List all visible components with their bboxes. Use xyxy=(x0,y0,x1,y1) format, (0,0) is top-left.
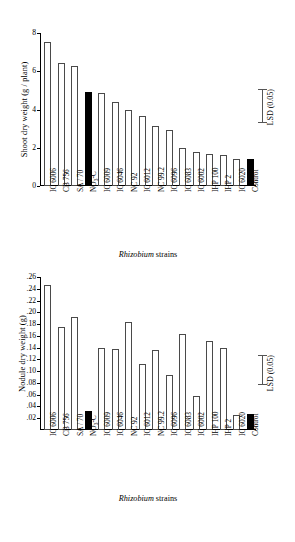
y-tick-label: 8 xyxy=(32,29,36,37)
lsd-line-top xyxy=(262,89,263,122)
y-tick-mark xyxy=(37,371,40,372)
y-tick-mark xyxy=(37,148,40,149)
y-tick-label: 6 xyxy=(32,67,36,75)
chart-panel-shoot-dry-weight: Shoot dry weight (g / plant) 02468 IC 60… xyxy=(0,0,295,271)
y-tick-mark xyxy=(37,383,40,384)
y-tick-mark xyxy=(37,110,40,111)
x-tick-label-bottom-12: IHP 100 xyxy=(212,411,219,436)
x-tick-label-top-13: IHP 2 xyxy=(225,175,232,192)
chart-panel-nodule-dry-weight: Nodule dry weight (g) .02.04.06.08.10.12… xyxy=(0,271,295,542)
x-tick-label-bottom-0: IC 6006 xyxy=(50,412,57,436)
bar-top-0 xyxy=(44,42,51,186)
y-tick-label: .22 xyxy=(27,297,37,305)
y-tick-mark xyxy=(37,33,40,34)
bar-bottom-13 xyxy=(220,348,227,430)
bar-top-2 xyxy=(71,66,78,186)
y-tick-mark xyxy=(37,289,40,290)
y-tick-label: .14 xyxy=(27,344,37,352)
y-axis-title-top: Shoot dry weight (g / plant) xyxy=(20,33,29,186)
bar-top-1 xyxy=(58,63,65,186)
y-tick-mark xyxy=(37,359,40,360)
x-tick-label-top-7: IC 6012 xyxy=(144,168,151,192)
y-tick-label: .24 xyxy=(27,285,37,293)
x-tick-label-top-10: IC 6083 xyxy=(185,168,192,192)
bar-bottom-6 xyxy=(125,322,132,430)
y-tick-mark xyxy=(37,348,40,349)
x-tick-label-bottom-6: NC 92 xyxy=(131,416,138,436)
bar-bottom-0 xyxy=(44,285,51,430)
y-tick-mark xyxy=(37,395,40,396)
x-tick-label-bottom-4: IC 6009 xyxy=(104,412,111,436)
y-tick-label: 0 xyxy=(32,182,36,190)
plot-area-bottom: .02.04.06.08.10.12.14.16.18.20.22.24.26 xyxy=(40,277,256,430)
figure-root: Shoot dry weight (g / plant) 02468 IC 60… xyxy=(0,0,295,542)
y-tick-label: .10 xyxy=(27,367,37,375)
x-tick-label-bottom-9: IC 6096 xyxy=(171,412,178,436)
x-tick-label-bottom-2: SA / 70 xyxy=(77,414,84,436)
x-tick-label-top-6: NC 92 xyxy=(131,172,138,192)
y-tick-mark xyxy=(37,277,40,278)
x-tick-label-top-1: CB 756 xyxy=(63,169,70,192)
y-tick-mark xyxy=(37,406,40,407)
x-tick-label-bottom-14: IC 6020 xyxy=(239,412,246,436)
x-tick-label-bottom-10: IC 6083 xyxy=(185,412,192,436)
x-tick-label-top-0: IC 6006 xyxy=(50,168,57,192)
y-tick-mark xyxy=(37,301,40,302)
x-tick-label-bottom-13: IHP 2 xyxy=(225,419,232,436)
x-tick-label-top-11: IC 6002 xyxy=(198,168,205,192)
x-tick-label-top-14: IC 6020 xyxy=(239,168,246,192)
x-tick-label-top-2: SA / 70 xyxy=(77,170,84,192)
y-tick-mark xyxy=(37,336,40,337)
y-tick-label: .06 xyxy=(27,391,37,399)
y-tick-mark xyxy=(37,324,40,325)
y-tick-mark xyxy=(37,312,40,313)
y-tick-label: 4 xyxy=(32,106,36,114)
y-tick-label: .26 xyxy=(27,273,37,281)
x-tick-label-bottom-1: CB 756 xyxy=(63,413,70,436)
x-tick-label-top-12: IHP 100 xyxy=(212,167,219,192)
lsd-label-bottom: LSD (0.05) xyxy=(266,355,275,391)
y-tick-label: .02 xyxy=(27,414,37,422)
y-tick-mark xyxy=(37,186,40,187)
y-tick-label: .12 xyxy=(27,356,37,364)
y-tick-label: .08 xyxy=(27,379,37,387)
y-tick-label: .04 xyxy=(27,403,37,411)
x-axis-title-bottom: Rhizobium strains xyxy=(40,494,256,503)
bar-series-top xyxy=(41,33,256,186)
lsd-annotation-top: LSD (0.05) xyxy=(256,89,290,122)
x-axis-title-top: Rhizobium strains xyxy=(40,250,256,259)
x-tick-label-top-5: IC 6046 xyxy=(117,168,124,192)
x-tick-label-bottom-8: NC 99.2 xyxy=(158,411,165,436)
x-tick-label-bottom-7: IC 6012 xyxy=(144,412,151,436)
y-tick-label: .18 xyxy=(27,320,37,328)
x-tick-label-top-8: NC 99.2 xyxy=(158,167,165,192)
x-tick-label-bottom-3: NO3-C xyxy=(90,415,98,436)
y-tick-mark xyxy=(37,71,40,72)
x-axis-title-genus: Rhizobium xyxy=(119,250,154,259)
lsd-label-top: LSD (0.05) xyxy=(266,89,275,125)
lsd-line-bottom xyxy=(262,355,263,385)
lsd-annotation-bottom: LSD (0.05) xyxy=(256,355,290,385)
bar-series-bottom xyxy=(41,277,256,430)
x-tick-label-top-4: IC 6009 xyxy=(104,168,111,192)
x-tick-label-bottom-5: IC 6046 xyxy=(117,412,124,436)
x-tick-label-bottom-11: IC 6002 xyxy=(198,412,205,436)
y-tick-label: .16 xyxy=(27,332,37,340)
x-tick-label-bottom-15: Control xyxy=(252,413,259,436)
y-tick-label: 2 xyxy=(32,144,36,152)
x-tick-label-top-15: Control xyxy=(252,169,259,192)
x-tick-label-top-3: NO3-C xyxy=(90,171,98,192)
x-axis-title-genus: Rhizobium xyxy=(119,494,154,503)
x-tick-label-top-9: IC 6096 xyxy=(171,168,178,192)
y-tick-label: .20 xyxy=(27,309,37,317)
plot-area-top: 02468 xyxy=(40,33,256,186)
y-tick-mark xyxy=(37,418,40,419)
